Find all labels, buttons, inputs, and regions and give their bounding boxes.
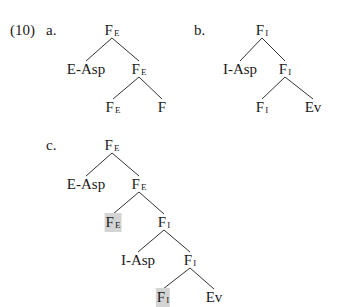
node-subscript: I (265, 28, 268, 38)
node-subscript: E (115, 220, 121, 230)
tree-edge (163, 268, 190, 289)
tree-node-c-fi2: FI (184, 253, 196, 268)
tree-node-a-fe2: FE (106, 100, 121, 115)
tree-node-c-easp: E-Asp (67, 177, 105, 192)
node-label: FI (184, 252, 196, 268)
node-label: FI (256, 22, 268, 38)
example-number: (10) (10, 23, 35, 38)
node-label: FI (256, 99, 268, 115)
tree-edge (112, 153, 139, 176)
tree-edge (139, 77, 162, 99)
node-subscript: I (265, 105, 268, 115)
tree-node-a-f: F (158, 100, 166, 115)
tree-edge (113, 77, 139, 99)
node-label: Ev (206, 289, 223, 305)
tree-node-a-fe1: FE (132, 62, 147, 77)
tree-edge (86, 153, 112, 176)
tree-edge (262, 38, 285, 61)
tree-node-c-iasp: I-Asp (121, 253, 155, 268)
tree-edge (262, 77, 285, 99)
node-label: FE (132, 176, 147, 192)
node-label: I-Asp (121, 252, 155, 268)
tree-node-c-fe1: FE (132, 177, 147, 192)
node-subscript: E (141, 67, 147, 77)
node-label: E-Asp (67, 61, 105, 77)
tree-edge (190, 268, 214, 289)
tree-edge (139, 192, 164, 214)
node-subscript: E (141, 182, 147, 192)
sub-label-a: a. (46, 23, 56, 38)
tree-node-a-easp: E-Asp (67, 62, 105, 77)
tree-node-b-ev: Ev (305, 100, 322, 115)
node-subscript: I (166, 295, 169, 305)
node-subscript: I (193, 258, 196, 268)
node-label: FE (105, 213, 122, 232)
node-label: FE (105, 22, 120, 38)
node-subscript: I (167, 220, 170, 230)
node-label: FE (106, 99, 121, 115)
node-label: FI (279, 61, 291, 77)
node-label: FI (156, 288, 170, 307)
tree-node-c-fe2: FE (105, 215, 122, 230)
sub-label-b: b. (194, 23, 205, 38)
tree-edge (164, 230, 190, 252)
tree-node-c-fi1: FI (158, 215, 170, 230)
node-subscript: E (114, 28, 120, 38)
node-label: I-Asp (223, 61, 257, 77)
tree-node-a-root: FE (105, 23, 120, 38)
tree-edge (285, 77, 313, 99)
node-label: Ev (305, 99, 322, 115)
tree-node-c-root: FE (105, 138, 120, 153)
node-subscript: E (115, 105, 121, 115)
tree-edge (138, 230, 164, 252)
tree-node-b-fi2: FI (256, 100, 268, 115)
node-label: FE (105, 137, 120, 153)
node-label: FE (132, 61, 147, 77)
tree-edge (112, 38, 139, 61)
node-subscript: I (288, 67, 291, 77)
node-label: FI (158, 214, 170, 230)
tree-edge (86, 38, 112, 61)
tree-node-b-fi1: FI (279, 62, 291, 77)
tree-node-c-ev: Ev (206, 290, 223, 305)
tree-node-b-iasp: I-Asp (223, 62, 257, 77)
tree-edge (240, 38, 262, 61)
node-subscript: E (114, 143, 120, 153)
node-label: E-Asp (67, 176, 105, 192)
node-label: F (158, 99, 166, 115)
tree-edge (113, 192, 139, 214)
sub-label-c: c. (46, 138, 56, 153)
tree-node-b-root: FI (256, 23, 268, 38)
tree-node-c-fi3: FI (156, 290, 170, 305)
